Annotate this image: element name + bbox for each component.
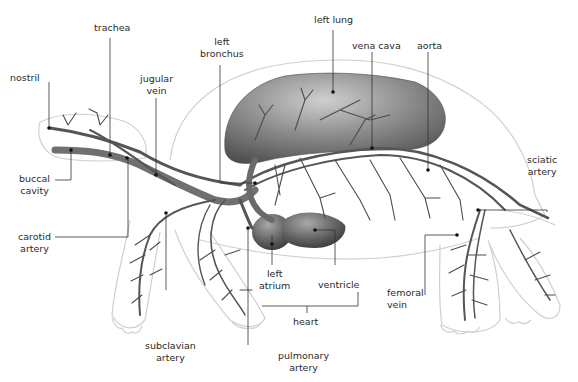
label-nostril: nostril	[10, 72, 40, 84]
label-line: vein	[140, 85, 173, 97]
label-line: buccal	[19, 173, 50, 185]
label-line: sciatic	[527, 154, 557, 166]
label-line: cavity	[19, 185, 50, 197]
label-sciatic-artery: sciatic artery	[527, 154, 557, 178]
label-subclavian-artery: subclavian artery	[145, 340, 196, 364]
tortoise-anatomy-diagram	[0, 0, 578, 382]
label-carotid-artery: carotid artery	[18, 231, 51, 255]
label-trachea: trachea	[94, 22, 130, 34]
label-left-atrium: left atrium	[259, 268, 290, 292]
label-line: left	[259, 268, 290, 280]
label-jugular-vein: jugular vein	[140, 73, 173, 97]
label-vena-cava: vena cava	[352, 40, 401, 52]
label-line: vein	[387, 299, 424, 311]
label-left-lung: left lung	[314, 14, 353, 26]
label-line: artery	[18, 243, 51, 255]
label-line: carotid	[18, 231, 51, 243]
label-line: artery	[145, 352, 196, 364]
label-line: bronchus	[200, 48, 244, 60]
label-heart: heart	[293, 316, 318, 328]
label-line: pulmonary	[278, 350, 329, 362]
label-femoral-vein: femoral vein	[387, 287, 424, 311]
label-line: left	[200, 36, 244, 48]
label-left-bronchus: left bronchus	[200, 36, 244, 60]
label-line: jugular	[140, 73, 173, 85]
label-buccal-cavity: buccal cavity	[19, 173, 50, 197]
label-line: artery	[527, 166, 557, 178]
label-line: femoral	[387, 287, 424, 299]
label-pulmonary-artery: pulmonary artery	[278, 350, 329, 374]
label-line: atrium	[259, 280, 290, 292]
label-line: artery	[278, 362, 329, 374]
label-aorta: aorta	[417, 40, 442, 52]
label-line: subclavian	[145, 340, 196, 352]
label-ventricle: ventricle	[318, 279, 359, 291]
